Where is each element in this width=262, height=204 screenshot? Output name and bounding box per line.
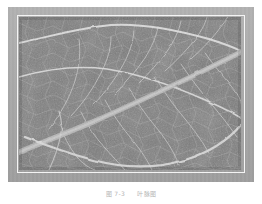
figure-caption: 图 7-3叶脉图 xyxy=(0,190,262,198)
figure-plate xyxy=(8,7,254,182)
leaf-venation-artwork xyxy=(19,17,241,170)
page-root: 图 7-3叶脉图 xyxy=(0,0,262,204)
figure-caption-number: 图 7-3 xyxy=(106,190,126,197)
figure-caption-text: 叶脉图 xyxy=(137,190,156,197)
leaf-venation-photo xyxy=(19,17,241,170)
